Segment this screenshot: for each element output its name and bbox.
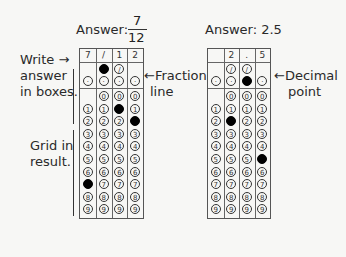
digit-bubble-0[interactable]: 0: [226, 91, 236, 101]
digit-bubble-9[interactable]: 9: [130, 204, 140, 214]
digit-bubble-2[interactable]: 2: [130, 116, 140, 126]
decimal-bubble[interactable]: ·: [83, 76, 93, 86]
answer-box[interactable]: /: [96, 50, 112, 60]
digit-bubble-5[interactable]: 5: [257, 154, 267, 164]
slash-bubble[interactable]: /: [226, 64, 236, 74]
digit-bubble-9[interactable]: 9: [257, 204, 267, 214]
digit-bubble-2[interactable]: 2: [114, 116, 124, 126]
answer-box[interactable]: 7: [80, 50, 96, 60]
digit-bubble-1[interactable]: 1: [130, 104, 140, 114]
decimal-bubble[interactable]: ·: [211, 76, 221, 86]
digit-bubble-9[interactable]: 9: [226, 204, 236, 214]
digit-bubble-2[interactable]: 2: [242, 116, 252, 126]
digit-bubble-9[interactable]: 9: [114, 204, 124, 214]
slash-bubble[interactable]: /: [242, 64, 252, 74]
decimal-bubble[interactable]: ·: [257, 76, 267, 86]
digit-bubble-5[interactable]: 5: [99, 154, 109, 164]
digit-bubble-8[interactable]: 8: [99, 192, 109, 202]
digit-bubble-4[interactable]: 4: [83, 141, 93, 151]
digit-bubble-7[interactable]: 7: [130, 179, 140, 189]
digit-bubble-1[interactable]: 1: [257, 104, 267, 114]
answer-box[interactable]: .: [239, 50, 255, 60]
digit-bubble-9[interactable]: 9: [211, 204, 221, 214]
digit-bubble-4[interactable]: 4: [226, 141, 236, 151]
digit-bubble-6[interactable]: 6: [242, 167, 252, 177]
slash-bubble[interactable]: /: [99, 64, 109, 74]
digit-bubble-1[interactable]: 1: [83, 104, 93, 114]
digit-bubble-2[interactable]: 2: [99, 116, 109, 126]
digit-bubble-0[interactable]: 0: [99, 91, 109, 101]
digit-bubble-6[interactable]: 6: [226, 167, 236, 177]
digit-bubble-3[interactable]: 3: [114, 129, 124, 139]
digit-bubble-2[interactable]: 2: [226, 116, 236, 126]
digit-bubble-3[interactable]: 3: [83, 129, 93, 139]
digit-bubble-6[interactable]: 6: [99, 167, 109, 177]
digit-bubble-1[interactable]: 1: [114, 104, 124, 114]
answer-box[interactable]: 2: [127, 50, 143, 60]
digit-bubble-6[interactable]: 6: [211, 167, 221, 177]
digit-bubble-5[interactable]: 5: [83, 154, 93, 164]
digit-bubble-0[interactable]: 0: [242, 91, 252, 101]
digit-bubble-8[interactable]: 8: [114, 192, 124, 202]
digit-bubble-5[interactable]: 5: [114, 154, 124, 164]
digit-bubble-3[interactable]: 3: [257, 129, 267, 139]
digit-bubble-5[interactable]: 5: [242, 154, 252, 164]
decimal-bubble[interactable]: ·: [114, 76, 124, 86]
digit-bubble-6[interactable]: 6: [83, 167, 93, 177]
digit-bubble-6[interactable]: 6: [114, 167, 124, 177]
digit-bubble-0[interactable]: 0: [114, 91, 124, 101]
digit-bubble-9[interactable]: 9: [242, 204, 252, 214]
digit-bubble-7[interactable]: 7: [211, 179, 221, 189]
answer-box[interactable]: 2: [224, 50, 240, 60]
digit-bubble-4[interactable]: 4: [242, 141, 252, 151]
digit-bubble-8[interactable]: 8: [130, 192, 140, 202]
digit-bubble-7[interactable]: 7: [257, 179, 267, 189]
digit-bubble-0[interactable]: 0: [130, 91, 140, 101]
digit-bubble-7[interactable]: 7: [99, 179, 109, 189]
digit-bubble-3[interactable]: 3: [242, 129, 252, 139]
digit-bubble-8[interactable]: 8: [242, 192, 252, 202]
digit-bubble-9[interactable]: 9: [99, 204, 109, 214]
digit-bubble-7[interactable]: 7: [226, 179, 236, 189]
digit-bubble-7[interactable]: 7: [114, 179, 124, 189]
digit-bubble-9[interactable]: 9: [83, 204, 93, 214]
digit-bubble-1[interactable]: 1: [242, 104, 252, 114]
answer-box[interactable]: 1: [112, 50, 128, 60]
decimal-bubble[interactable]: ·: [130, 76, 140, 86]
digit-bubble-0[interactable]: 0: [257, 91, 267, 101]
digit-bubble-2[interactable]: 2: [211, 116, 221, 126]
decimal-bubble[interactable]: ·: [242, 76, 252, 86]
digit-bubble-5[interactable]: 5: [130, 154, 140, 164]
digit-bubble-6[interactable]: 6: [130, 167, 140, 177]
digit-bubble-1[interactable]: 1: [226, 104, 236, 114]
digit-bubble-7[interactable]: 7: [242, 179, 252, 189]
digit-bubble-7[interactable]: 7: [83, 179, 93, 189]
digit-bubble-5[interactable]: 5: [226, 154, 236, 164]
digit-bubble-8[interactable]: 8: [211, 192, 221, 202]
digit-bubble-3[interactable]: 3: [130, 129, 140, 139]
row-divider: [208, 62, 270, 63]
digit-bubble-3[interactable]: 3: [99, 129, 109, 139]
digit-bubble-6[interactable]: 6: [257, 167, 267, 177]
column-divider: [255, 49, 256, 218]
answer-label-right: Answer: 2.5: [205, 22, 282, 38]
digit-bubble-4[interactable]: 4: [211, 141, 221, 151]
digit-bubble-4[interactable]: 4: [114, 141, 124, 151]
digit-bubble-8[interactable]: 8: [226, 192, 236, 202]
digit-bubble-4[interactable]: 4: [257, 141, 267, 151]
digit-bubble-4[interactable]: 4: [99, 141, 109, 151]
digit-bubble-3[interactable]: 3: [226, 129, 236, 139]
digit-bubble-1[interactable]: 1: [211, 104, 221, 114]
digit-bubble-2[interactable]: 2: [83, 116, 93, 126]
digit-bubble-8[interactable]: 8: [83, 192, 93, 202]
answer-box[interactable]: 5: [255, 50, 271, 60]
digit-bubble-5[interactable]: 5: [211, 154, 221, 164]
decimal-bubble[interactable]: ·: [99, 76, 109, 86]
slash-bubble[interactable]: /: [114, 64, 124, 74]
digit-bubble-8[interactable]: 8: [257, 192, 267, 202]
digit-bubble-4[interactable]: 4: [130, 141, 140, 151]
digit-bubble-2[interactable]: 2: [257, 116, 267, 126]
decimal-bubble[interactable]: ·: [226, 76, 236, 86]
digit-bubble-3[interactable]: 3: [211, 129, 221, 139]
digit-bubble-1[interactable]: 1: [99, 104, 109, 114]
